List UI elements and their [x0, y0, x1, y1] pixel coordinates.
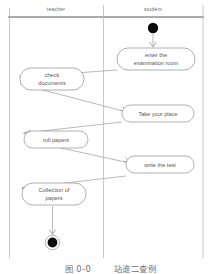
figure-caption-label: 图 0-0	[65, 264, 91, 274]
final-node-core	[48, 238, 58, 248]
activity-take-your-place[interactable]: Take your place	[122, 105, 194, 122]
activity-collection-of-papers-label-line1: Collection of	[39, 187, 70, 193]
figure-caption-title: 站谁二查例	[114, 264, 156, 274]
activity-enter-exam-room-label-line1: enter the	[145, 52, 167, 58]
activity-check-documents-label-line2: documents	[38, 80, 66, 86]
lane-title-teacher: teacher	[47, 6, 65, 12]
activity-collection-of-papers[interactable]: Collection of papers	[22, 183, 86, 205]
activity-collection-of-papers-label-line2: papers	[45, 195, 62, 201]
activity-roll-papers-label: roll papers	[43, 137, 69, 143]
activity-write-the-test[interactable]: write the test	[126, 156, 194, 173]
activity-take-your-place-label: Take your place	[138, 111, 177, 117]
activity-enter-exam-room-label-line2: examination room	[134, 60, 179, 66]
activity-check-documents[interactable]: check documents	[20, 68, 84, 90]
activity-diagram-canvas: teacher student	[0, 0, 215, 274]
lane-title-student: student	[144, 6, 162, 12]
final-node[interactable]	[45, 235, 59, 249]
initial-node[interactable]	[148, 23, 158, 33]
activity-enter-exam-room[interactable]: enter the examination room	[117, 48, 195, 70]
activity-check-documents-label-line1: check	[45, 72, 60, 78]
activity-write-the-test-label: write the test	[143, 162, 176, 168]
activity-diagram-root: teacher student	[0, 0, 215, 274]
activity-roll-papers[interactable]: roll papers	[24, 131, 88, 148]
